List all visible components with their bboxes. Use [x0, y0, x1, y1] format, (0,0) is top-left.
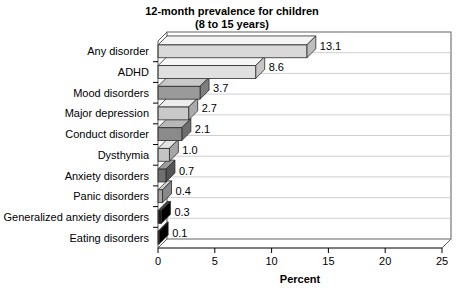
value-label: 2.1	[195, 123, 210, 135]
x-tick-label: 15	[322, 255, 334, 267]
bar-3	[158, 77, 209, 99]
x-tick-label: 25	[436, 255, 448, 267]
value-label: 8.6	[269, 61, 284, 73]
category-label: Major depression	[65, 107, 149, 119]
category-label: Generalized anxiety disorders	[3, 211, 149, 223]
category-label: Any disorder	[87, 45, 149, 57]
category-labels: Any disorderADHDMood disordersMajor depr…	[3, 45, 149, 243]
value-label: 3.7	[213, 82, 228, 94]
bar-2	[158, 57, 265, 79]
category-label: Anxiety disorders	[65, 170, 150, 182]
x-tick-label: 5	[212, 255, 218, 267]
x-axis-title: Percent	[280, 273, 321, 285]
category-label: Mood disorders	[73, 87, 149, 99]
chart-page: 12-month prevalence for children (8 to 1…	[0, 0, 464, 289]
category-label: Panic disorders	[73, 190, 149, 202]
category-label: Dysthymia	[98, 149, 150, 161]
bar-chart: Any disorderADHDMood disordersMajor depr…	[0, 0, 464, 289]
x-tick-label: 20	[379, 255, 391, 267]
value-label: 0.4	[176, 185, 191, 197]
category-label: Eating disorders	[70, 232, 150, 244]
x-tick-label: 10	[265, 255, 277, 267]
value-label: 0.1	[172, 227, 187, 239]
value-label: 13.1	[320, 40, 341, 52]
value-label: 0.3	[174, 206, 189, 218]
value-label: 2.7	[202, 102, 217, 114]
bar-10	[158, 222, 168, 244]
value-label: 1.0	[182, 144, 197, 156]
category-label: ADHD	[118, 66, 149, 78]
bar-1	[158, 36, 316, 58]
x-tick-label: 0	[155, 255, 161, 267]
x-axis-ticks: 0510152025	[155, 248, 448, 267]
category-label: Conduct disorder	[65, 128, 149, 140]
value-label: 0.7	[179, 165, 194, 177]
bar-4	[158, 98, 198, 120]
